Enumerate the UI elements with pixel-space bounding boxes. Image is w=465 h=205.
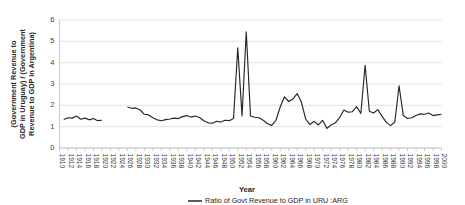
x-tick-label: 1944 [204, 154, 211, 169]
x-tick-label: 1998 [433, 154, 440, 169]
x-axis-tick-labels: 1910191219141916191819201922192419261928… [59, 154, 448, 169]
x-tick-label: 1946 [212, 154, 219, 169]
x-tick-label: 1926 [127, 154, 134, 169]
x-tick-label: 1912 [68, 154, 75, 169]
x-tick-label: 1938 [178, 154, 185, 169]
x-tick-label: 1992 [407, 154, 414, 169]
y-axis-title-line-0: (Government Revenue to [9, 40, 18, 127]
x-tick-label: 1988 [390, 154, 397, 169]
series-line-0 [127, 32, 441, 129]
x-tick-label: 1980 [356, 154, 363, 169]
y-axis-title-line-2: Revenue to GDP in Argentina) [27, 32, 36, 136]
chart-legend: Ratio of Govt Revenue to GDP in URU :ARG [188, 196, 348, 205]
x-tick-label: 1960 [272, 154, 279, 169]
x-tick-label: 1952 [238, 154, 245, 169]
y-axis-title-line-1: GDP in Uruguay) / (Government [18, 29, 27, 139]
x-tick-label: 1990 [399, 154, 406, 169]
x-tick-label: 1968 [306, 154, 313, 169]
x-tick-label: 1924 [119, 154, 126, 169]
x-tick-label: 1920 [102, 154, 109, 169]
gridlines [60, 20, 442, 148]
legend-label: Ratio of Govt Revenue to GDP in URU :ARG [205, 196, 348, 205]
y-tick-label: 0 [50, 143, 54, 152]
y-tick-label: 2 [50, 100, 54, 109]
x-tick-label: 1958 [263, 154, 270, 169]
x-tick-label: 1942 [195, 154, 202, 169]
data-series-group [64, 32, 442, 129]
line-chart: 0123456 19101912191419161918192019221924… [0, 0, 465, 205]
x-tick-label: 1922 [110, 154, 117, 169]
x-tick-label: 1930 [144, 154, 151, 169]
x-tick-label: 1986 [382, 154, 389, 169]
x-tick-label: 1996 [424, 154, 431, 169]
y-axis-title: (Government Revenue toGDP in Uruguay) / … [9, 29, 36, 139]
x-tick-label: 1928 [136, 154, 143, 169]
x-tick-label: 1910 [59, 154, 66, 169]
x-tick-label: 1940 [187, 154, 194, 169]
y-tick-label: 5 [50, 36, 54, 45]
x-tick-label: 1984 [373, 154, 380, 169]
x-tick-label: 2000 [441, 154, 448, 169]
chart-container: 0123456 19101912191419161918192019221924… [0, 0, 465, 205]
y-tick-label: 6 [50, 15, 54, 24]
x-tick-label: 1914 [76, 154, 83, 169]
x-tick-label: 1956 [255, 154, 262, 169]
x-tick-label: 1964 [289, 154, 296, 169]
x-tick-label: 1994 [416, 154, 423, 169]
x-tick-label: 1916 [85, 154, 92, 169]
x-axis-title: Year [239, 185, 255, 194]
series-line-0 [64, 116, 102, 121]
x-tick-label: 1954 [246, 154, 253, 169]
x-tick-label: 1982 [365, 154, 372, 169]
x-tick-label: 1972 [323, 154, 330, 169]
x-tick-label: 1978 [348, 154, 355, 169]
x-tick-label: 1966 [297, 154, 304, 169]
x-tick-label: 1976 [339, 154, 346, 169]
x-tick-label: 1950 [229, 154, 236, 169]
x-tick-label: 1932 [153, 154, 160, 169]
x-tick-label: 1974 [331, 154, 338, 169]
x-tick-label: 1948 [221, 154, 228, 169]
x-tick-label: 1936 [170, 154, 177, 169]
y-axis-tick-labels: 0123456 [50, 15, 54, 152]
x-tick-label: 1970 [314, 154, 321, 169]
x-tick-label: 1962 [280, 154, 287, 169]
x-tick-label: 1934 [161, 154, 168, 169]
x-axis-tick-marks [60, 148, 442, 151]
x-tick-label: 1918 [93, 154, 100, 169]
y-tick-label: 3 [50, 79, 54, 88]
y-tick-label: 4 [50, 58, 54, 67]
y-tick-label: 1 [50, 122, 54, 131]
